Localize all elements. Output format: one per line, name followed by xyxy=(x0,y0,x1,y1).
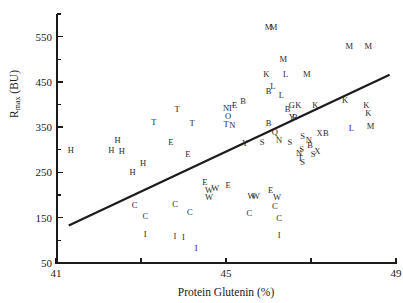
data-point: L xyxy=(283,70,288,79)
data-point: C xyxy=(272,202,278,211)
y-tick-label: 550 xyxy=(36,32,53,43)
data-point: S xyxy=(287,137,292,146)
x-tick xyxy=(225,258,226,264)
y-tick-label: 450 xyxy=(36,77,53,88)
y-tick-major xyxy=(57,217,63,218)
y-tick-minor xyxy=(57,194,61,195)
y-axis-line xyxy=(56,14,58,263)
data-point: E xyxy=(185,150,190,159)
data-point: K xyxy=(263,70,269,79)
data-point: I xyxy=(182,232,185,241)
data-point: M xyxy=(365,41,373,50)
y-tick-minor xyxy=(57,59,61,60)
y-tick-major xyxy=(57,126,63,127)
data-point: H xyxy=(140,159,146,168)
data-point: M xyxy=(345,41,353,50)
data-point: L xyxy=(279,91,284,100)
x-tick-label: 45 xyxy=(221,268,232,279)
data-point: L xyxy=(349,124,354,133)
data-point: X xyxy=(316,128,322,137)
data-point: C xyxy=(276,213,282,222)
x-tick-label: 41 xyxy=(51,268,62,279)
data-point: S xyxy=(300,132,305,141)
y-tick-label: 250 xyxy=(36,167,53,178)
data-point: C xyxy=(187,208,193,217)
data-point: I xyxy=(278,231,281,240)
y-tick-minor xyxy=(57,104,61,105)
y-tick-minor xyxy=(57,240,61,241)
data-point: B xyxy=(240,97,246,106)
data-point: I xyxy=(195,243,198,252)
x-tick xyxy=(140,258,141,264)
data-point: T xyxy=(189,118,194,127)
data-point: W xyxy=(205,193,213,202)
data-point: S xyxy=(300,158,305,167)
data-point: C xyxy=(172,200,178,209)
data-point: N xyxy=(229,121,235,130)
scatter-chart: 50150250350450550 414549 HHHHHHCCICIIICT… xyxy=(0,0,403,303)
data-point: X xyxy=(314,146,320,155)
data-point: C xyxy=(142,212,148,221)
x-axis-title: Protein Glutenin (%) xyxy=(56,286,396,298)
data-point: E xyxy=(232,101,237,110)
x-tick xyxy=(395,258,396,264)
data-point: T xyxy=(151,117,156,126)
data-point: H xyxy=(119,146,125,155)
data-point: K xyxy=(342,96,348,105)
data-point: I xyxy=(144,230,147,239)
y-tick-label: 150 xyxy=(36,213,53,224)
data-point: T xyxy=(223,119,228,128)
data-point: E xyxy=(226,181,231,190)
data-point: W xyxy=(252,192,260,201)
data-point: M xyxy=(303,70,311,79)
data-point: B xyxy=(292,113,298,122)
data-point: Y xyxy=(242,138,248,147)
data-point: K xyxy=(365,108,371,117)
data-point: L xyxy=(270,82,275,91)
data-point: H xyxy=(129,167,135,176)
y-axis-title: Rmax (BU) xyxy=(8,70,20,118)
y-tick-major xyxy=(57,172,63,173)
y-tick-major xyxy=(57,81,63,82)
data-point: C xyxy=(247,209,253,218)
x-tick-label: 49 xyxy=(391,268,402,279)
data-point: I xyxy=(174,232,177,241)
data-point: H xyxy=(108,146,114,155)
data-point: C xyxy=(132,201,138,210)
data-point: H xyxy=(115,136,121,145)
data-point: M xyxy=(280,55,288,64)
y-tick-label: 350 xyxy=(36,122,53,133)
data-point: S xyxy=(260,137,265,146)
data-point: M xyxy=(270,22,278,31)
y-tick-major xyxy=(57,262,63,263)
data-point: K xyxy=(295,101,301,110)
x-tick xyxy=(55,258,56,264)
y-tick-major xyxy=(57,36,63,37)
plot-area: 50150250350450550 414549 HHHHHHCCICIIICT… xyxy=(56,14,396,263)
data-point: H xyxy=(68,146,74,155)
data-point: T xyxy=(175,105,180,114)
data-point: G xyxy=(289,101,295,110)
data-point: K xyxy=(312,100,318,109)
data-point: M xyxy=(367,122,375,131)
x-tick xyxy=(310,258,311,264)
trend-line xyxy=(56,14,396,263)
data-point: E xyxy=(168,137,173,146)
data-point: B xyxy=(266,118,272,127)
y-tick-minor xyxy=(57,149,61,150)
y-tick-minor xyxy=(57,13,61,14)
data-point: N xyxy=(276,136,282,145)
data-point: B xyxy=(323,128,329,137)
